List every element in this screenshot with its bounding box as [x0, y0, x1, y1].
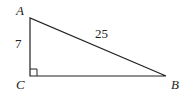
triangle-diagram: A C B 7 25 — [0, 0, 187, 91]
vertex-label-c: C — [16, 77, 25, 91]
side-label-ac: 7 — [15, 36, 22, 51]
right-angle-marker — [30, 69, 37, 76]
vertex-label-b: B — [171, 77, 179, 91]
vertex-label-a: A — [15, 3, 24, 18]
side-label-ab: 25 — [95, 26, 108, 41]
